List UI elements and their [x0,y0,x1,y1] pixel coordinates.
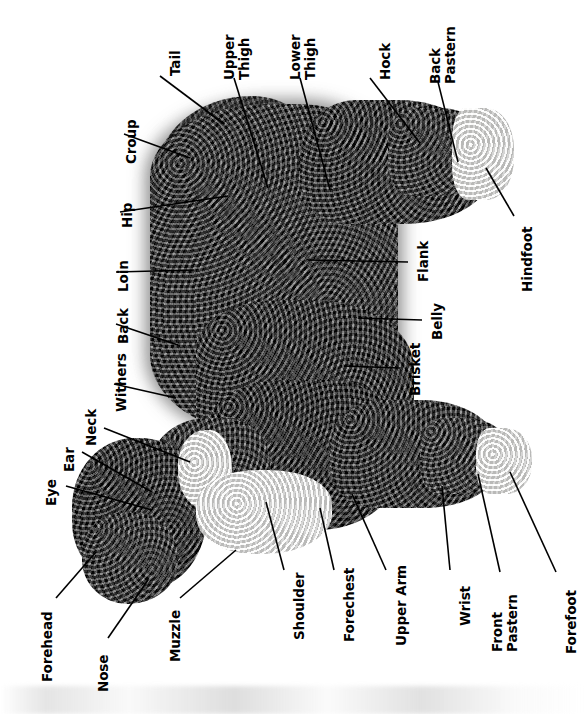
dog-chest-marking [196,470,332,554]
label-tail: Tail [168,51,183,76]
label-brisket: Brisket [408,343,423,396]
label-nose: Nose [96,655,111,692]
label-hip: Hip [120,203,135,228]
label-muzzle: Muzzle [168,610,183,662]
label-upper-arm: Upper Arm [394,565,409,646]
ground-shadow [0,686,585,714]
anatomy-diagram: Tail Upper Thigh Lower Thigh Hock Back P… [0,0,585,714]
label-back: Back [116,308,131,344]
dog-hindfoot [452,108,514,200]
label-hindfoot: Hindfoot [520,227,535,292]
label-eye: Eye [44,479,59,506]
label-shoulder: Shoulder [292,572,307,640]
label-front-pastern: Front Pastern [490,594,520,652]
label-flank: Flank [416,241,431,282]
label-loin: Loin [116,260,131,292]
label-hock: Hock [378,43,393,80]
dog-forefoot [476,428,532,494]
label-upper-thigh: Upper Thigh [222,34,252,80]
label-wrist: Wrist [458,586,473,626]
label-forefoot: Forefoot [564,590,579,654]
label-croup: Croup [124,119,139,164]
label-ear: Ear [62,447,77,472]
label-neck: Neck [84,409,99,446]
dog-muzzle [82,512,178,604]
label-forechest: Forechest [342,568,357,642]
label-back-pastern: Back Pastern [428,26,458,84]
label-withers: Withers [114,353,129,412]
label-forehead: Forehead [40,611,55,682]
label-lower-thigh: Lower Thigh [288,34,318,80]
label-belly: Belly [430,303,445,340]
